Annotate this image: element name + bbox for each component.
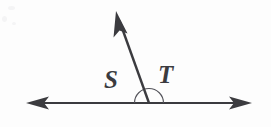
angle-label-s: S bbox=[104, 66, 118, 93]
ray-upward bbox=[120, 21, 150, 103]
geometry-figure: S T bbox=[0, 0, 271, 127]
angle-label-t: T bbox=[158, 61, 175, 88]
diagram-canvas: S T bbox=[0, 0, 271, 127]
arrowhead-up-icon bbox=[114, 11, 128, 38]
